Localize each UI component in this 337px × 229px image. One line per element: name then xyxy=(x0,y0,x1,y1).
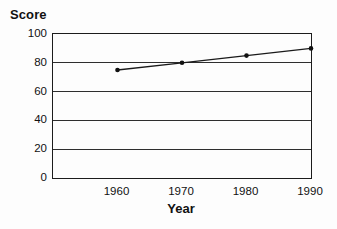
data-point-marker-1980 xyxy=(244,53,249,58)
data-line xyxy=(118,48,312,70)
x-axis-title: Year xyxy=(52,201,310,216)
y-axis-title: Score xyxy=(10,7,47,22)
y-tick-label: 0 xyxy=(7,171,47,183)
y-tick-label: 100 xyxy=(7,27,47,39)
y-tick-label: 20 xyxy=(7,142,47,154)
x-tick-label: 1980 xyxy=(226,185,266,197)
x-tick-label: 1960 xyxy=(97,185,137,197)
y-tick-label: 80 xyxy=(7,56,47,68)
data-point-marker-1960 xyxy=(115,68,120,73)
data-point-marker-1970 xyxy=(180,61,185,66)
data-line-series xyxy=(53,34,311,178)
y-tick-label: 40 xyxy=(7,113,47,125)
plot-area xyxy=(52,33,312,179)
data-point-marker-1990 xyxy=(309,46,314,51)
score-line-chart-figure: Score 020406080100 1960197019801990 Year xyxy=(0,0,337,229)
x-tick-label: 1970 xyxy=(161,185,201,197)
y-tick-label: 60 xyxy=(7,85,47,97)
x-tick-label: 1990 xyxy=(290,185,330,197)
